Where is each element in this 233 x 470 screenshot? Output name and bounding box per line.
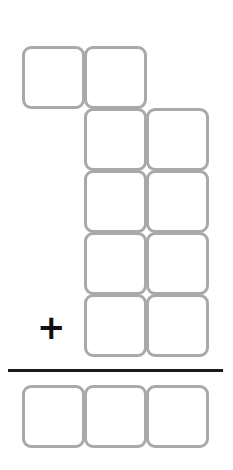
digit-box-r3-c2[interactable] [146, 170, 209, 233]
digit-box-r5-c1[interactable] [84, 294, 147, 357]
answer-box-1[interactable] [22, 385, 85, 448]
digit-box-r1-c1[interactable] [22, 46, 85, 109]
answer-box-3[interactable] [146, 385, 209, 448]
digit-box-r2-c1[interactable] [84, 108, 147, 171]
plus-operator: + [37, 310, 66, 344]
digit-box-r4-c1[interactable] [84, 232, 147, 295]
digit-box-r3-c1[interactable] [84, 170, 147, 233]
answer-box-2[interactable] [84, 385, 147, 448]
digit-box-r1-c2[interactable] [84, 46, 147, 109]
sum-line [8, 369, 223, 372]
digit-box-r2-c2[interactable] [146, 108, 209, 171]
digit-box-r5-c2[interactable] [146, 294, 209, 357]
digit-box-r4-c2[interactable] [146, 232, 209, 295]
